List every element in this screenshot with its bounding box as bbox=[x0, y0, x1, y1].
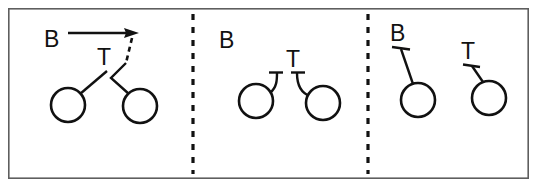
panel-1-arrow-head bbox=[124, 28, 139, 38]
panel-2-right-node bbox=[306, 86, 340, 120]
panel-3-left-node bbox=[401, 83, 435, 117]
panel-3-right-cap bbox=[463, 65, 480, 68]
panel-1-dashed-connector bbox=[126, 38, 132, 63]
panel-3-left-stalk bbox=[401, 49, 413, 84]
panel-3-right-stalk bbox=[472, 66, 483, 82]
panel-3-b-label: B bbox=[390, 20, 405, 46]
panel-1-left-node bbox=[51, 88, 85, 122]
panel-1-right-node bbox=[123, 89, 157, 123]
panel-3-right-node bbox=[472, 81, 506, 115]
panel-1-zigzag-connector bbox=[111, 63, 129, 94]
panel-1-left-stalk bbox=[80, 71, 107, 94]
panel-2-left-node bbox=[239, 84, 273, 118]
panel-1-t-label: T bbox=[97, 44, 111, 70]
panel-3: B T bbox=[390, 20, 506, 117]
diagram-figure: B T B T bbox=[0, 0, 537, 187]
panel-3-left-cap bbox=[392, 47, 410, 50]
panel-2-left-hook bbox=[270, 73, 277, 93]
panel-3-t-label: T bbox=[461, 38, 475, 64]
panel-2-t-label: T bbox=[286, 46, 300, 72]
panel-1: B T bbox=[44, 26, 157, 123]
diagram-canvas: B T B T bbox=[0, 0, 537, 187]
panel-2: B T bbox=[219, 27, 340, 120]
panel-2-b-label: B bbox=[219, 27, 234, 53]
panel-1-b-label: B bbox=[44, 26, 59, 52]
